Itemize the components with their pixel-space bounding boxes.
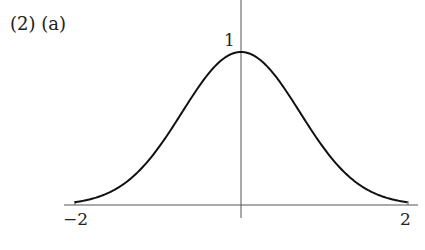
plot-area (0, 0, 425, 250)
